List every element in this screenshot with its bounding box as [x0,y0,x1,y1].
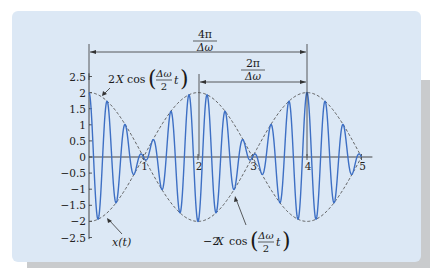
cos-fn: cos [127,73,146,86]
y-tick-label: −1.5 [61,199,87,211]
y-tick-label: −1 [71,183,86,195]
y-tick-label: 2.5 [69,71,86,83]
y-tick-label: 0.5 [69,135,86,147]
y-axis-ticks: 2.521.510.50−0.5−1−1.5−2−2.5 [61,71,93,244]
y-tick-label: −2.5 [61,232,87,244]
y-tick-label: 0 [79,151,86,163]
right-paren: ) [180,66,189,91]
small-span-numerator: 2π [246,57,260,70]
arrowhead-right-icon [300,80,306,84]
left-paren: ( [250,228,259,253]
lower-envelope-label: −2 X cos ( Δω 2 t ) [203,196,291,254]
big-span-numerator: 4π [198,28,212,41]
coef: 2 [108,73,115,86]
y-tick-label: −0.5 [61,167,87,179]
arrowhead-right-icon [300,50,306,54]
y-tick-label: −2 [71,215,86,227]
signal-name: x(t) [112,236,131,249]
arrowhead-left-icon [200,80,206,84]
frac-den: 2 [161,81,167,92]
dimension-arrow-4pi: 4π Δω [89,28,307,156]
right-paren: ) [282,228,291,253]
y-tick-label: 2 [79,87,86,99]
cos-fn: cos [229,235,248,248]
beat-signal-chart: 2.521.510.50−0.5−1−1.5−2−2.5 12345 4π Δω… [0,0,437,278]
x-tick-label: 1 [141,160,148,172]
arrowhead-left-icon [90,50,96,54]
frac-den: 2 [263,243,269,254]
left-paren: ( [148,66,157,91]
time-var: t [174,74,179,87]
leader-arrow-icon [234,196,238,202]
x-tick-label: 4 [305,160,312,172]
amplitude-symbol: X [215,235,225,248]
frac-num: Δω [155,68,171,79]
small-span-denominator: Δω [244,70,262,82]
x-tick-label: 3 [250,160,257,172]
big-span-denominator: Δω [196,41,214,53]
x-tick-label: 5 [359,160,366,172]
y-tick-label: 1 [79,119,86,131]
upper-envelope-label: 2 X cos ( Δω 2 t ) [102,66,189,96]
amplitude-symbol: X [115,73,125,86]
time-var: t [276,236,281,249]
frac-num: Δω [257,230,273,241]
signal-label: x(t) [107,218,131,249]
y-tick-label: 1.5 [69,103,86,115]
